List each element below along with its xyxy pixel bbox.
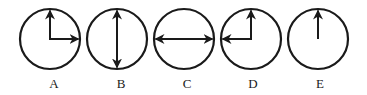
- clock-a: [20, 9, 80, 69]
- clock-d: [221, 9, 281, 69]
- option-label-c: C: [177, 77, 197, 91]
- clock-b: [87, 9, 147, 69]
- option-label-b: B: [111, 77, 131, 91]
- clock-c: [154, 9, 214, 69]
- clock-e: [288, 9, 348, 69]
- option-label-a: A: [44, 77, 64, 91]
- option-label-d: D: [243, 77, 263, 91]
- option-label-e: E: [310, 77, 330, 91]
- clock-options-figure: A B C D E: [0, 0, 367, 95]
